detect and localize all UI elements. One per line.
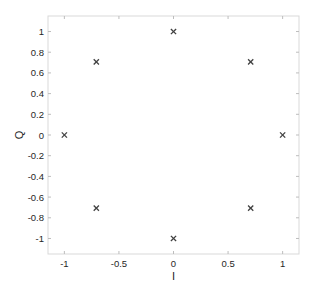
x-tick-label: 0 (171, 258, 176, 269)
axes-box (48, 16, 299, 254)
y-tick-label: -0.2 (28, 150, 44, 161)
y-tick-label: -0.4 (28, 171, 44, 182)
x-tick-label: -0.5 (111, 258, 127, 269)
y-tick-label: -0.8 (28, 212, 44, 223)
y-tick-label: 0.4 (31, 88, 44, 99)
constellation-plot: -1-0.500.51 -1-0.8-0.6-0.4-0.200.20.40.6… (0, 0, 317, 291)
y-axis-label: Q (13, 130, 25, 139)
y-tick-label: 0 (39, 130, 44, 141)
y-tick-label: 0.8 (31, 47, 44, 58)
x-axis-label: I (172, 270, 175, 282)
y-tick-label: -0.6 (28, 192, 44, 203)
x-tick-label: 1 (280, 258, 285, 269)
y-tick-label: 1 (39, 26, 44, 37)
x-tick-label: -1 (60, 258, 68, 269)
y-tick-label: 0.6 (31, 67, 44, 78)
y-tick-label: 0.2 (31, 109, 44, 120)
y-tick-label: -1 (36, 233, 44, 244)
x-tick-label: 0.5 (221, 258, 234, 269)
